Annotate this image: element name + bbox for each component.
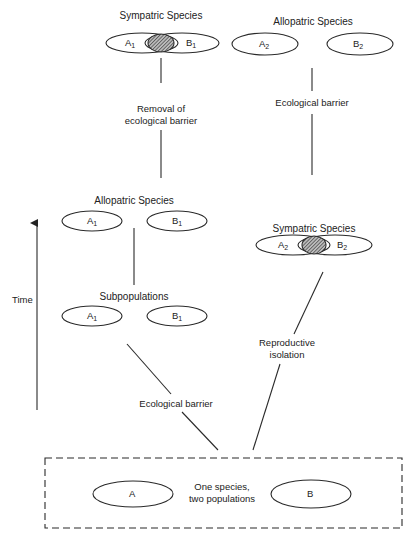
reproductive-isolation-label-2: isolation	[252, 349, 322, 361]
subpopulations-title: Subpopulations	[89, 291, 179, 303]
allopatric-a2-label: A2	[259, 38, 269, 53]
sympatric-a2-label: A2	[278, 239, 288, 254]
removal-barrier-label-1: Removal of	[111, 103, 211, 115]
sympatric-2-title: Sympatric Species	[269, 223, 359, 235]
subpop-a1-label: A1	[87, 310, 97, 325]
sympatric-2-overlap	[302, 236, 326, 254]
allopatric-b1-label: B1	[172, 215, 182, 230]
allopatric-b2-label: B2	[353, 38, 363, 53]
sympatric-b2-label: B2	[337, 239, 347, 254]
removal-barrier-label-2: ecological barrier	[101, 115, 221, 127]
allopatric-2-title: Allopatric Species	[268, 16, 358, 28]
reproductive-isolation-label-1: Reproductive	[252, 337, 322, 349]
sympatric-a1-label: A1	[125, 37, 135, 52]
ecological-barrier-left-label: Ecological barrier	[126, 398, 226, 410]
time-label: Time	[12, 294, 33, 306]
subpop-b1-label: B1	[172, 310, 182, 325]
origin-caption-1: One species,	[182, 481, 262, 493]
sympatric-b1-label: B1	[186, 37, 196, 52]
origin-caption-2: two populations	[172, 493, 272, 505]
population-a-label: A	[129, 488, 135, 500]
allopatric-1-title: Allopatric Species	[89, 195, 179, 207]
sympatric-1-title: Sympatric Species	[116, 10, 206, 22]
population-b-label: B	[307, 488, 313, 500]
ecological-barrier-right-label: Ecological barrier	[262, 97, 362, 109]
allopatric-a1-label: A1	[87, 215, 97, 230]
sympatric-1-overlap	[148, 34, 174, 52]
diagram-canvas	[0, 0, 419, 550]
